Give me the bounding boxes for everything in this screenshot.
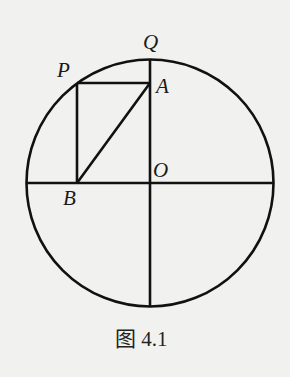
label-B: B: [63, 186, 76, 210]
segment-AB: [77, 83, 150, 183]
figure-caption: 图 4.1: [115, 327, 168, 351]
circle-diagram: Q P A O B 图 4.1: [0, 0, 290, 377]
label-Q: Q: [143, 30, 158, 54]
label-P: P: [56, 58, 70, 82]
label-O: O: [153, 158, 168, 182]
label-A: A: [154, 74, 169, 98]
